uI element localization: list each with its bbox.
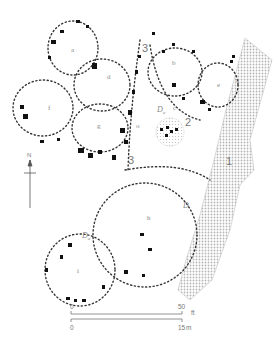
structure-label: c <box>173 104 176 112</box>
scale-labels: 0 50 ft 0 15 m <box>70 303 195 331</box>
site-plan: a b c d e f g h i o a 1 2 3 3 Da D Da N … <box>0 0 280 346</box>
structure-label: e <box>217 81 220 89</box>
scale-m-unit: m <box>186 324 191 331</box>
structure-label: o <box>136 122 140 130</box>
structure-label: b <box>172 59 176 67</box>
feature-label: 3 <box>128 154 134 166</box>
svg-text:N: N <box>27 152 31 158</box>
structure-label: i <box>77 267 79 275</box>
structure-label: g <box>97 122 101 130</box>
marker-label: D <box>182 201 189 210</box>
feature-label: 1 <box>226 155 232 167</box>
north-arrow: N <box>24 152 36 208</box>
marker-label: Da <box>81 231 91 241</box>
scale-m-start: 0 <box>70 324 74 331</box>
feature-labels: 1 2 3 3 <box>128 42 232 167</box>
marker-label: Da <box>156 105 166 115</box>
feature-label: 2 <box>185 116 191 128</box>
scale-ft-unit: ft <box>191 309 195 316</box>
structure-label: h <box>147 214 151 222</box>
scale-ft-start: 0 <box>70 303 74 310</box>
feature-label: 3 <box>142 42 148 54</box>
scale-m-end: 15 <box>178 324 186 331</box>
structure-label: a <box>71 46 75 54</box>
structure-label: d <box>107 73 111 81</box>
scale-bars <box>71 311 182 322</box>
feature-1-hatched-area <box>178 38 272 300</box>
structure-label: f <box>48 104 51 112</box>
scale-ft-end: 50 <box>178 303 186 310</box>
